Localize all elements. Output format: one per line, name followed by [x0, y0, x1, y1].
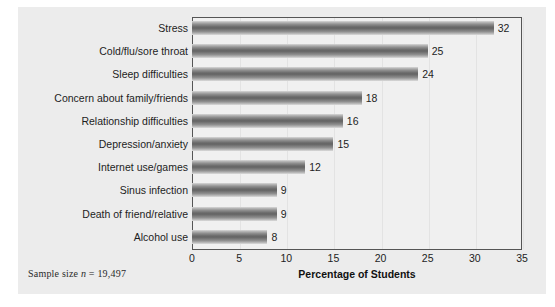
- bar-row: 9: [192, 203, 522, 226]
- bar-row: 24: [192, 63, 522, 86]
- bar: [192, 44, 428, 58]
- x-tick-label: 35: [516, 252, 528, 264]
- bar-row: 12: [192, 156, 522, 179]
- bar-value-label: 9: [281, 183, 287, 197]
- bar-row: 16: [192, 110, 522, 133]
- sample-size-prefix: Sample size: [28, 268, 81, 279]
- category-label: Stress: [158, 17, 188, 40]
- bar: [192, 183, 277, 197]
- bar: [192, 67, 418, 81]
- bar-chart-figure: StressCold/flu/sore throatSleep difficul…: [0, 0, 555, 307]
- sample-size-annotation: Sample size n = 19,497: [28, 268, 126, 279]
- category-label: Relationship difficulties: [81, 110, 188, 133]
- bar: [192, 207, 277, 221]
- bar: [192, 21, 494, 35]
- bar-value-label: 24: [422, 67, 434, 81]
- x-tick-label: 20: [375, 252, 387, 264]
- x-tick-label: 5: [236, 252, 242, 264]
- category-label: Death of friend/relative: [82, 203, 188, 226]
- bar-row: 15: [192, 133, 522, 156]
- category-label: Sinus infection: [120, 179, 188, 202]
- bar-value-label: 32: [498, 21, 510, 35]
- bar-row: 18: [192, 87, 522, 110]
- category-label: Internet use/games: [98, 156, 188, 179]
- x-tick-label: 30: [469, 252, 481, 264]
- x-tick-label: 15: [328, 252, 340, 264]
- bar-row: 25: [192, 40, 522, 63]
- bar: [192, 160, 305, 174]
- x-axis-title: Percentage of Students: [192, 268, 522, 280]
- bar-value-label: 12: [309, 160, 321, 174]
- gridline: [523, 18, 524, 249]
- bar: [192, 137, 333, 151]
- bar-row: 9: [192, 179, 522, 202]
- bar-row: 32: [192, 17, 522, 40]
- bar-value-label: 8: [271, 230, 277, 244]
- x-tick-label: 10: [280, 252, 292, 264]
- sample-size-suffix: = 19,497: [86, 268, 126, 279]
- x-axis-tick-labels: 05101520253035: [192, 252, 522, 266]
- category-label: Sleep difficulties: [112, 63, 188, 86]
- category-axis-labels: StressCold/flu/sore throatSleep difficul…: [0, 17, 188, 249]
- bar-value-label: 25: [432, 44, 444, 58]
- category-label: Cold/flu/sore throat: [99, 40, 188, 63]
- bar-value-label: 16: [347, 114, 359, 128]
- bar: [192, 91, 362, 105]
- category-label: Concern about family/friends: [54, 87, 188, 110]
- bar: [192, 230, 267, 244]
- x-tick-label: 0: [189, 252, 195, 264]
- bar-row: 8: [192, 226, 522, 249]
- x-tick-label: 25: [422, 252, 434, 264]
- bar-value-label: 18: [366, 91, 378, 105]
- category-label: Depression/anxiety: [99, 133, 188, 156]
- bar-value-label: 9: [281, 207, 287, 221]
- bars-container: 32252418161512998: [192, 17, 522, 249]
- bar-value-label: 15: [337, 137, 349, 151]
- category-label: Alcohol use: [134, 226, 188, 249]
- bar: [192, 114, 343, 128]
